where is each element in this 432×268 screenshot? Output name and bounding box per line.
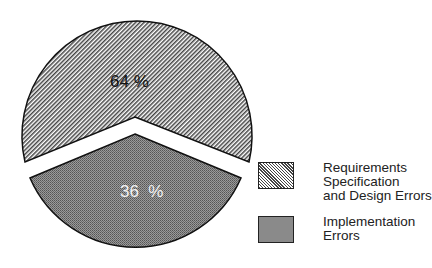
slice-label-implementation: 36 % xyxy=(120,182,163,201)
legend-swatch-implementation xyxy=(258,216,294,243)
legend-label-requirements: Requirements Specification and Design Er… xyxy=(323,161,432,203)
legend-label-implementation: Implementation Errors xyxy=(323,215,415,243)
legend-swatch-requirements xyxy=(258,162,294,189)
slice-label-requirements: 64 % xyxy=(110,72,149,91)
